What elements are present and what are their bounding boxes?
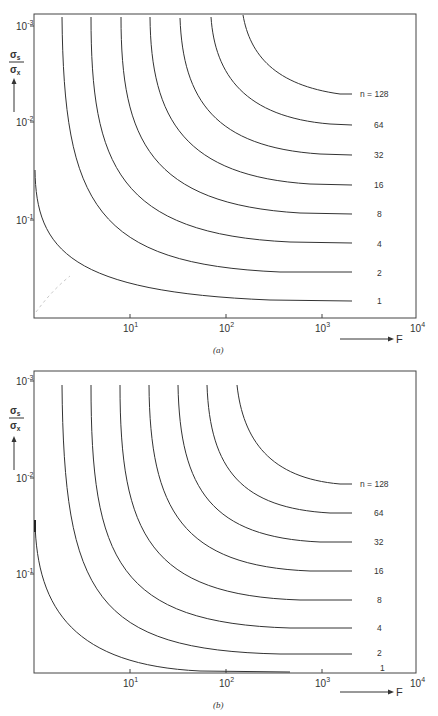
curves-b (35, 385, 352, 672)
label-b-n16: 16 (374, 566, 384, 576)
y-tick-label-a-2: 10-2 (16, 115, 33, 128)
curve-a-n4 (91, 17, 352, 243)
y-axis-label-a: σs σx (9, 49, 24, 112)
caption-a: (a) (213, 345, 224, 355)
y-tick-label-a-3: 10-1 (16, 213, 33, 226)
curve-a-n16 (150, 17, 352, 185)
label-b-n64: 64 (374, 508, 384, 518)
faint-dashed-line-a (36, 276, 70, 312)
label-b-n1: 1 (380, 663, 385, 673)
x-tick-label-a-2: 102 (219, 321, 234, 334)
x-tick-label-b-4: 104 (410, 676, 425, 689)
label-b-n2: 2 (377, 648, 382, 658)
y-tick-label-b-3: 10-1 (16, 567, 33, 580)
y-tick-label-b-1: 10-3 (16, 374, 33, 387)
x-tick-label-b-2: 102 (219, 676, 234, 689)
label-a-n2: 2 (377, 268, 382, 278)
x-tick-label-a-1: 101 (123, 321, 138, 334)
curve-b-n2 (62, 385, 352, 654)
x-axis-label-a: F (396, 333, 403, 345)
curve-a-n128 (243, 15, 352, 94)
curve-b-n1 (35, 522, 290, 672)
curve-a-n64 (211, 17, 352, 125)
x-tick-label-a-3: 103 (315, 321, 330, 334)
curve-b-n128 (237, 385, 352, 484)
label-a-n4: 4 (377, 239, 382, 249)
curves-a (35, 15, 352, 301)
label-b-n32: 32 (374, 537, 384, 547)
x-tick-label-b-3: 103 (315, 676, 330, 689)
figure: 10-3 10-2 10-1 σs σx 101 102 103 104 F (… (0, 0, 438, 716)
curve-a-n2 (62, 17, 352, 272)
series-labels-b: n = 128 64 32 16 8 4 2 1 (360, 479, 389, 673)
svg-text:σx: σx (10, 420, 21, 432)
label-a-n8: 8 (377, 209, 382, 219)
x-tick-label-b-1: 101 (123, 676, 138, 689)
curve-b-n4 (91, 385, 352, 628)
curve-a-n1 (35, 170, 352, 301)
label-b-n8: 8 (377, 595, 382, 605)
curve-a-n32 (180, 18, 352, 155)
curve-b-n64 (207, 385, 352, 513)
x-axis-label-b: F (396, 686, 403, 698)
label-a-n1: 1 (377, 296, 382, 306)
svg-text:σs: σs (10, 405, 21, 417)
label-b-n128: n = 128 (360, 479, 389, 489)
curve-b-n8 (120, 385, 352, 600)
series-labels-a: n = 128 64 32 16 8 4 2 1 (360, 89, 389, 306)
panel-a: 10-3 10-2 10-1 σs σx 101 102 103 104 F (… (9, 14, 425, 355)
label-a-n64: 64 (374, 120, 384, 130)
label-a-n128: n = 128 (360, 89, 389, 99)
y-tick-label-b-2: 10-2 (16, 471, 33, 484)
label-a-n32: 32 (374, 150, 384, 160)
y-axis-label-b: σs σx (9, 405, 24, 470)
svg-text:σs: σs (10, 49, 21, 61)
x-tick-label-a-4: 104 (410, 321, 425, 334)
caption-b: (b) (213, 700, 224, 710)
label-b-n4: 4 (377, 623, 382, 633)
panel-b: 10-3 10-2 10-1 σs σx 101 102 103 104 F (… (9, 371, 425, 710)
label-a-n16: 16 (374, 180, 384, 190)
y-tick-label-a-1: 10-3 (16, 19, 33, 32)
curve-b-n32 (178, 385, 352, 542)
svg-text:σx: σx (10, 64, 21, 76)
